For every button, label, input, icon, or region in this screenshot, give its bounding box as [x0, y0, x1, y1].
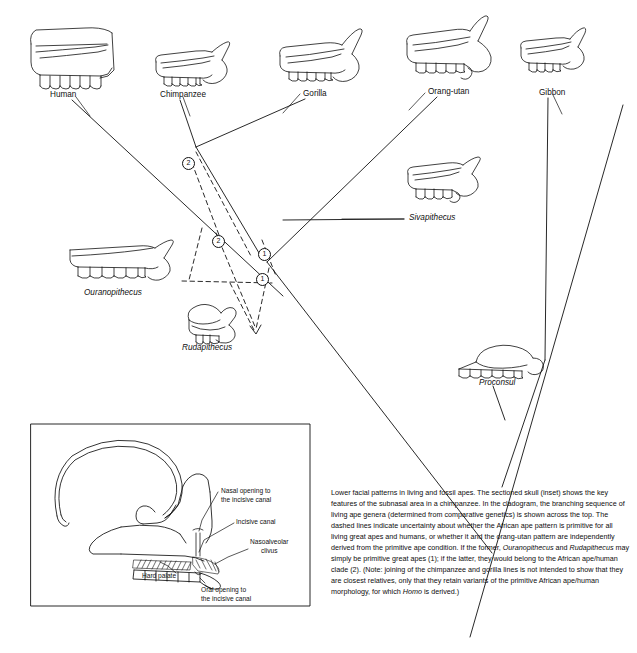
inset-label-hard-palate: Hard palate [142, 572, 176, 581]
caption-segment-6: is derived.) [422, 587, 459, 596]
clade-node-2-lower: 2 [212, 235, 225, 248]
leader-human [76, 97, 90, 116]
taxon-label-gibbon: Gibbon [539, 88, 565, 98]
figure-caption: Lower facial patterns in living and foss… [331, 487, 631, 597]
figure-canvas: Human Chimpanzee Gorilla Orang-utan Gibb… [0, 0, 637, 653]
taxon-label-gorilla: Gorilla [303, 89, 327, 99]
inset-label-nasal-opening: Nasal opening to the incisive canal [221, 487, 271, 505]
inset-label-nasoalveolar-line2: clivus [250, 547, 288, 556]
caption-segment-3: Rudapithecus [570, 543, 614, 552]
branch-chimpanzee [180, 100, 196, 147]
skull-proconsul [459, 345, 543, 379]
taxon-label-human: Human [50, 90, 76, 100]
skull-gorilla [280, 29, 363, 82]
taxon-label-ouranopithecus: Ouranopithecus [84, 288, 142, 298]
inset-label-oral-opening: Oral opening to the incisive canal [201, 586, 251, 604]
taxon-label-sivapithecus: Sivapithecus [409, 213, 455, 223]
taxon-label-orangutan: Orang-utan [428, 87, 469, 97]
skull-chimpanzee [156, 42, 230, 86]
branch-orangutan [267, 97, 437, 262]
taxon-label-chimpanzee: Chimpanzee [160, 90, 206, 100]
caption-segment-1: Ouranopithecus [503, 543, 554, 552]
taxon-leader-lines [76, 93, 562, 219]
skull-orangutan [407, 16, 492, 79]
inset-label-oral-opening-line1: Oral opening to [201, 586, 251, 595]
inset-skull-chimpanzee [55, 440, 221, 589]
clade-node-1-upper: 1 [258, 248, 271, 261]
branch-african-stem [196, 147, 262, 258]
taxon-label-rudapithecus: Rudapithecus [182, 343, 232, 353]
inset-nasoalveolar-clivus-hatching [193, 557, 219, 574]
inset-label-oral-opening-line2: the incisive canal [201, 595, 251, 604]
caption-segment-2: and [554, 543, 570, 552]
clade-node-1-lower: 1 [256, 273, 269, 286]
skull-gibbon [521, 28, 586, 72]
skull-ouranopithecus [70, 240, 173, 280]
leader-incisive-canal [199, 523, 234, 552]
skull-human [31, 28, 114, 89]
leader-orangutan [409, 93, 425, 110]
leader-nasoalveolar [215, 549, 248, 564]
dashed-node2-upper-to-node2-lower [192, 163, 222, 243]
skull-rudapithecus [188, 304, 236, 344]
inset-label-nasal-opening-line2: the incisive canal [221, 496, 271, 505]
inset-label-nasal-opening-line1: Nasal opening to [221, 487, 271, 496]
inset-label-nasoalveolar-clivus: Nasoalveolar clivus [250, 538, 288, 556]
dashed-node2-lower-left [189, 228, 202, 280]
clade-node-2-upper: 2 [182, 157, 195, 170]
connector-proconsul [493, 386, 505, 420]
branch-gibbon [545, 98, 548, 360]
caption-segment-5: Homo [403, 587, 422, 596]
branch-human [72, 100, 283, 296]
dashed-rudapithecus-v-left [230, 283, 254, 330]
inset-label-nasoalveolar-line1: Nasoalveolar [250, 538, 288, 547]
inset-label-incisive-canal: Incisive canal [236, 518, 276, 527]
leader-nasal-opening [199, 492, 218, 531]
leader-gorilla [283, 94, 300, 113]
skull-sivapithecus [408, 157, 481, 203]
cladogram-dashed-uncertainty [182, 152, 276, 330]
taxon-label-proconsul: Proconsul [479, 378, 515, 388]
inset-hard-palate-hatching [133, 560, 191, 570]
